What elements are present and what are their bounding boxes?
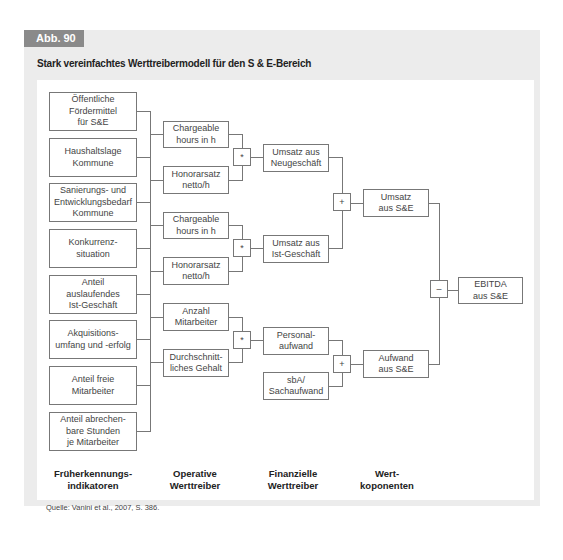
- connector: [251, 157, 263, 158]
- indicator-box: Konkurrenz- situation: [49, 229, 137, 268]
- connector: [150, 362, 163, 363]
- connector: [351, 203, 363, 204]
- operative-box: Chargeable hours in h: [163, 121, 229, 148]
- column-heading-early-indicators: Früherkennungs- indikatoren: [43, 468, 143, 492]
- operative-box: Honorarsatz netto/h: [163, 257, 229, 285]
- connector: [329, 248, 342, 249]
- indicator-box: Anteil freie Mitarbeiter: [49, 366, 137, 405]
- multiply-operator: *: [233, 239, 251, 257]
- connector: [229, 225, 242, 226]
- plus-operator: +: [333, 355, 351, 373]
- minus-operator: –: [430, 280, 448, 298]
- connector: [137, 111, 150, 112]
- value-box-revenue: Umsatz aus S&E: [363, 189, 429, 217]
- connector: [229, 271, 242, 272]
- indicator-box: Sanierungs- und Entwicklungsbedarf Kommu…: [49, 183, 137, 222]
- operative-box: Anzahl Mitarbeiter: [163, 303, 229, 331]
- financial-box: Umsatz aus Neugeschäft: [263, 144, 329, 172]
- connector: [448, 290, 458, 291]
- indicator-box: Anteil auslaufendes Ist-Geschäft: [49, 275, 137, 314]
- connector: [429, 203, 439, 204]
- plus-operator: +: [333, 193, 351, 211]
- connector: [229, 180, 242, 181]
- operative-box: Chargeable hours in h: [163, 212, 229, 239]
- connector: [351, 364, 363, 365]
- connector: [137, 248, 150, 249]
- connector: [137, 294, 150, 295]
- connector: [150, 134, 163, 135]
- multiply-operator: *: [233, 331, 251, 349]
- operative-box: Durchschnitt- liches Gehalt: [163, 349, 229, 377]
- connector: [150, 180, 163, 181]
- connector: [229, 134, 242, 135]
- connector: [229, 317, 242, 318]
- column-heading-financial: Finanzielle Werttreiber: [243, 468, 343, 492]
- connector: [150, 271, 163, 272]
- column-heading-operative: Operative Werttreiber: [145, 468, 245, 492]
- indicator-box: Anteil abrechen- bare Stunden je Mitarbe…: [49, 412, 137, 451]
- financial-box: sbA/ Sachaufwand: [263, 372, 329, 400]
- connector: [137, 431, 150, 432]
- connector: [329, 340, 342, 341]
- connector: [137, 385, 150, 386]
- figure-title: Stark vereinfachtes Werttreibermodell fü…: [37, 58, 311, 69]
- connector: [429, 364, 439, 365]
- financial-box: Personal- aufwand: [263, 327, 329, 355]
- source-note: Quelle: Vanini et al., 2007, S. 386.: [46, 503, 159, 512]
- connector: [329, 386, 342, 387]
- multiply-operator: *: [233, 148, 251, 166]
- connector: [150, 317, 163, 318]
- connector: [229, 362, 242, 363]
- financial-box: Umsatz aus Ist-Geschäft: [263, 235, 329, 263]
- operative-box: Honorarsatz netto/h: [163, 166, 229, 194]
- indicator-box: Akquisitions- umfang und -erfolg: [49, 320, 137, 359]
- connector: [251, 340, 263, 341]
- connector: [150, 225, 163, 226]
- value-box-expense: Aufwand aus S&E: [363, 350, 429, 378]
- connector: [137, 157, 150, 158]
- connector: [251, 248, 263, 249]
- column-heading-value: Wert- koponenten: [337, 468, 437, 492]
- indicator-box: Haushaltslage Kommune: [49, 138, 137, 177]
- connector: [137, 339, 150, 340]
- figure-label: Abb. 90: [24, 30, 84, 47]
- connector: [137, 202, 150, 203]
- ebitda-box: EBITDA aus S&E: [458, 277, 523, 304]
- connector: [329, 157, 342, 158]
- indicator-box: Öffentliche Fördermittel für S&E: [49, 92, 137, 131]
